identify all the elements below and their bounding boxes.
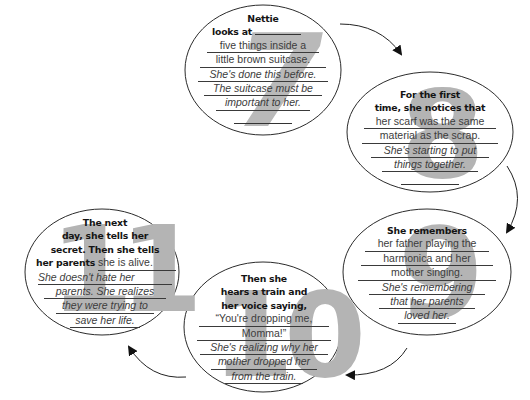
answer-line: little brown suitcase. — [200, 53, 326, 67]
answer-line: her scarf was the same — [364, 115, 496, 129]
inference-line: loved her. — [398, 309, 456, 323]
prompt-line: The next — [30, 216, 180, 229]
blank-line — [234, 111, 292, 124]
answer-line: material as the scrap. — [362, 129, 498, 143]
node-10: 10 Then she hears a train and her voice … — [186, 268, 342, 388]
blank-line — [255, 25, 301, 35]
answer-line: “You're dropping me, — [199, 312, 329, 326]
inference-line: important to her. — [216, 96, 310, 110]
prompt-line: She remembers — [348, 224, 506, 237]
prompt-line: day, she tells her — [30, 229, 180, 242]
inference-line: parents. She realizes — [44, 285, 166, 299]
arrow-10-to-11 — [129, 347, 186, 377]
inference-line: things together. — [382, 158, 478, 172]
inference-line: The suitcase must be — [204, 82, 322, 96]
arrow-7-to-8 — [340, 24, 401, 54]
inference-line: save her life. — [70, 314, 140, 328]
answer-line: five things inside a — [207, 39, 319, 53]
blank-line — [401, 172, 459, 185]
prompt-line: her voice saying, — [186, 299, 342, 312]
prompt-line: Nettie — [190, 12, 336, 25]
answer-line: harmonica and her — [361, 252, 493, 266]
prompt-line: hears a train and — [186, 285, 342, 298]
prompt-line: secret. Then she tells — [30, 243, 180, 256]
inference-line: She's remembering — [369, 281, 485, 295]
node-11: 11 The next day, she tells her secret. T… — [30, 214, 180, 330]
prompt-line: For the first — [352, 88, 508, 101]
prompt-line: time, she notices that — [352, 101, 508, 114]
prompt-line: Then she — [186, 272, 342, 285]
answer-line: she is alive. — [98, 256, 176, 270]
node-9: 9 She remembers her father playing the h… — [348, 218, 506, 330]
inference-line: She's done this before. — [198, 68, 328, 82]
inference-line: they were trying to — [56, 299, 154, 313]
inference-line: that her parents — [379, 295, 475, 309]
inference-line: She doesn't hate her — [38, 271, 172, 285]
answer-line: her father playing the — [365, 237, 489, 251]
inference-line: She's realizing why her — [200, 341, 328, 355]
inference-line: She's starting to put — [371, 144, 489, 158]
arrow-8-to-9 — [507, 166, 518, 232]
prompt-line: looks at — [212, 26, 252, 37]
answer-line: mother singing. — [358, 266, 496, 280]
prompt-line: her parents — [36, 257, 95, 268]
node-8: 8 For the first time, she notices that h… — [352, 80, 508, 190]
inference-line: from the train. — [225, 370, 303, 384]
answer-line: Momma!” — [197, 327, 331, 341]
inference-line: mother dropped her — [211, 355, 317, 369]
node-7: 7 Nettie looks at five things inside a l… — [190, 8, 336, 133]
